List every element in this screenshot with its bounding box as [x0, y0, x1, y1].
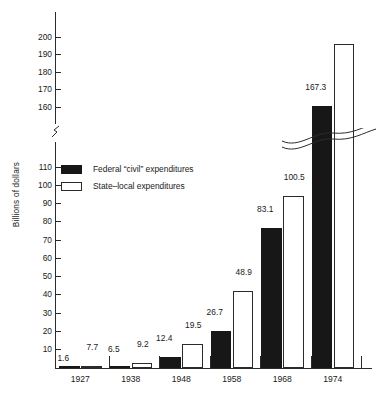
x-axis-line	[55, 368, 372, 369]
bar-federal-1938	[110, 366, 131, 368]
bar-chart: Billions of dollars 20019018017016011010…	[0, 0, 381, 400]
legend-swatch-federal-icon	[61, 165, 82, 174]
bar-federal-1958	[211, 331, 232, 368]
bar-federal-1974	[312, 106, 333, 368]
group-separator	[361, 356, 362, 368]
bar-value-federal-1974: 167.3	[300, 83, 333, 91]
y-tick-label: 100	[12, 181, 52, 189]
x-category-1927: 1927	[53, 375, 108, 384]
bar-state-local-1974	[334, 44, 355, 368]
y-tick-label: 160	[12, 103, 52, 111]
bar-state-local-1938	[132, 363, 153, 368]
y-tick-label: 20	[12, 327, 52, 335]
bar-state-local-1948	[182, 344, 203, 368]
y-tick-label: 180	[12, 68, 52, 76]
legend-label-federal: Federal “civil” expenditures	[93, 165, 194, 173]
x-category-1968: 1968	[255, 375, 310, 384]
y-tick-label: 200	[12, 33, 52, 41]
bar-value-state-local-1968: 100.5	[279, 173, 310, 181]
bar-value-federal-1948: 12.4	[148, 334, 181, 342]
y-tick-label: 70	[12, 236, 52, 244]
y-tick-label: 80	[12, 217, 52, 225]
legend-label-state-local: State–local expenditures	[93, 182, 185, 190]
y-tick-label: 190	[12, 50, 52, 58]
x-category-1958: 1958	[205, 375, 260, 384]
bar-federal-1968	[261, 228, 282, 368]
bar-state-local-1927	[81, 366, 102, 368]
y-tick-label: 30	[12, 309, 52, 317]
x-category-1974: 1974	[306, 375, 361, 384]
legend: Federal “civil” expenditures State–local…	[61, 163, 194, 197]
bar-value-federal-1958: 26.7	[199, 308, 232, 316]
bar-value-state-local-1948: 19.5	[178, 321, 209, 329]
bar-state-local-1958	[233, 291, 254, 368]
legend-item-federal: Federal “civil” expenditures	[61, 163, 194, 176]
bar-state-local-1968	[283, 196, 304, 368]
y-tick-label: 10	[12, 345, 52, 353]
y-tick-label: 110	[12, 163, 52, 171]
x-category-1938: 1938	[104, 375, 159, 384]
bar-value-federal-1938: 6.5	[98, 345, 131, 353]
bar-value-federal-1927: 1.6	[47, 354, 80, 362]
y-tick-label: 60	[12, 254, 52, 262]
legend-item-state-local: State–local expenditures	[61, 180, 194, 193]
y-tick-label: 90	[12, 199, 52, 207]
bar-value-state-local-1958: 48.9	[229, 268, 260, 276]
y-tick-label: 170	[12, 85, 52, 93]
bar-federal-1927	[59, 366, 80, 368]
legend-swatch-state-local-icon	[61, 182, 82, 191]
y-tick-label: 50	[12, 272, 52, 280]
x-category-1948: 1948	[154, 375, 209, 384]
bar-federal-1948	[160, 357, 181, 368]
y-tick-label: 40	[12, 290, 52, 298]
bar-value-federal-1968: 83.1	[249, 205, 282, 213]
